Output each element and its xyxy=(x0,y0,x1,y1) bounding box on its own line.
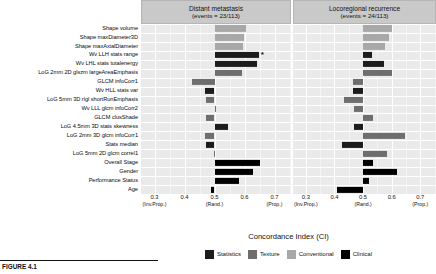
feature-label: Shape maxAxialDiameter xyxy=(0,42,141,51)
feature-label-column: Shape volumeShape maxDiameter3DShape max… xyxy=(0,24,141,194)
feature-label: Stats median xyxy=(0,140,141,149)
bar-row xyxy=(293,176,436,185)
caption-rule xyxy=(0,260,158,261)
x-axis-tick: 0.4 xyxy=(180,194,188,201)
feature-label: Wv HLL stats var xyxy=(0,87,141,96)
x-tick-sublabel: (Inv.Prop.) xyxy=(294,201,318,208)
bar xyxy=(344,97,363,103)
bar-row xyxy=(293,60,436,69)
plot-area-distant-metastasis: * xyxy=(141,24,291,194)
x-tick-value: 0.7 xyxy=(267,194,283,201)
bar-row xyxy=(293,185,436,194)
legend-label: Clinical xyxy=(353,251,372,257)
bar-rows: * xyxy=(141,24,291,194)
bar-row xyxy=(293,87,436,96)
legend-item: Conventional xyxy=(287,250,334,259)
feature-label: LoG 4.5mm 3D stats skewness xyxy=(0,122,141,131)
bar-row xyxy=(293,69,436,78)
bar-row xyxy=(141,69,291,78)
panel-title: Distant metastasis xyxy=(189,5,243,13)
feature-label: Shape volume xyxy=(0,24,141,33)
x-tick-sublabel: (Prop.) xyxy=(412,201,428,208)
bar-row xyxy=(293,122,436,131)
bar xyxy=(363,133,405,139)
bar-row xyxy=(293,149,436,158)
bar xyxy=(215,34,244,40)
feature-label: Wv LHL stats totalenergy xyxy=(0,60,141,69)
figure-caption: FIGURE 4.1 xyxy=(2,263,37,270)
bar xyxy=(206,115,214,121)
bar-row xyxy=(141,122,291,131)
bar xyxy=(363,43,385,49)
bar xyxy=(363,70,392,76)
figure-container: Shape volumeShape maxDiameter3DShape max… xyxy=(0,0,436,274)
panel-distant-metastasis: Distant metastasis (events = 23/113) * 0… xyxy=(141,0,291,218)
legend-item: Clinical xyxy=(341,250,372,259)
feature-label: LoG 2mm 2D glszm largeAreaEmphasis xyxy=(0,69,141,78)
x-tick-sublabel: (Inv.Prop.) xyxy=(143,201,167,208)
bar-row xyxy=(293,158,436,167)
bar-row xyxy=(293,24,436,33)
bar xyxy=(215,25,247,31)
bar xyxy=(206,142,214,148)
bar-row xyxy=(141,167,291,176)
bar xyxy=(363,115,372,121)
bar xyxy=(215,52,259,58)
feature-label: LoG 2mm 3D glcm infoCorr1 xyxy=(0,131,141,140)
bar-row xyxy=(141,78,291,87)
feature-label: Performance Status xyxy=(0,176,141,185)
panel-events: (events = 23/113) xyxy=(192,12,240,19)
x-axis-tick: 0.6 xyxy=(388,194,396,201)
x-tick-value: 0.5 xyxy=(354,194,371,201)
legend-swatch xyxy=(287,250,296,259)
bar xyxy=(363,52,372,58)
bar xyxy=(211,186,215,192)
feature-label: Wv LLH stats range xyxy=(0,51,141,60)
bar-row xyxy=(141,158,291,167)
bar xyxy=(215,169,253,175)
bar-row xyxy=(141,113,291,122)
bar xyxy=(215,106,217,112)
x-tick-value: 0.3 xyxy=(294,194,318,201)
bar xyxy=(363,34,389,40)
legend-swatch xyxy=(248,250,257,259)
x-axis-tick: 0.4 xyxy=(330,194,338,201)
x-tick-value: 0.4 xyxy=(180,194,188,201)
bar xyxy=(363,151,387,157)
bar xyxy=(192,79,215,85)
panel-events: (events = 24/113) xyxy=(341,12,389,19)
bar xyxy=(215,61,257,67)
bar xyxy=(363,169,397,175)
bar-row xyxy=(141,185,291,194)
feature-label: Overall Stage xyxy=(0,158,141,167)
x-tick-value: 0.6 xyxy=(240,194,248,201)
bar xyxy=(363,160,373,166)
bar xyxy=(337,186,363,192)
x-tick-value: 0.6 xyxy=(388,194,396,201)
bar xyxy=(205,133,215,139)
bar-row xyxy=(141,140,291,149)
bar-row xyxy=(141,176,291,185)
bar xyxy=(354,106,363,112)
bar xyxy=(215,70,243,76)
bar xyxy=(363,177,369,183)
bar xyxy=(353,88,363,94)
feature-label: Gender xyxy=(0,167,141,176)
x-axis-tick: 0.5(Rand.) xyxy=(206,194,223,208)
bar-row xyxy=(293,105,436,114)
bar-row xyxy=(293,167,436,176)
feature-label: Wv LLL glcm infoCorr2 xyxy=(0,105,141,114)
legend-label: Statistics xyxy=(217,251,241,257)
x-axis-distant-metastasis: 0.3(Inv.Prop.)0.40.5(Rand.)0.60.7(Prop.) xyxy=(141,194,291,218)
bar xyxy=(215,177,239,183)
bar xyxy=(363,25,392,31)
x-axis-tick: 0.6 xyxy=(240,194,248,201)
panel-header-distant-metastasis: Distant metastasis (events = 23/113) xyxy=(141,0,291,24)
bar-row xyxy=(141,24,291,33)
legend-swatch xyxy=(205,250,214,259)
bar-row xyxy=(293,42,436,51)
x-axis-title: Concordance Index (CI) xyxy=(141,232,436,241)
bar xyxy=(353,79,363,85)
bar xyxy=(214,151,215,157)
bar xyxy=(215,160,261,166)
